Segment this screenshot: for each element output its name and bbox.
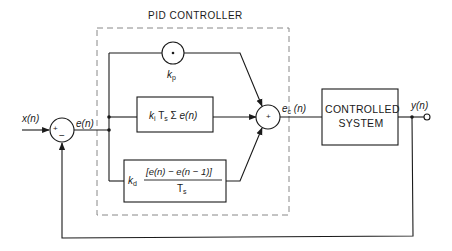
- multiply-dot-icon: [172, 52, 175, 55]
- branch-dot-error: [107, 128, 111, 132]
- integral-block-text: ki Ts Σ e(n): [149, 111, 197, 122]
- derivative-denominator: Ts: [177, 184, 187, 195]
- proportional-gain-label: kp: [167, 70, 176, 81]
- controlled-system-line2: SYSTEM: [325, 118, 397, 129]
- input-sum-minus-sign: −: [59, 131, 65, 141]
- output-terminal-icon: [424, 114, 430, 120]
- derivative-gain-label: kd: [128, 176, 137, 187]
- derivative-numerator: [e(n) − e(n − 1)]: [146, 167, 212, 177]
- error-signal-label: e(n): [76, 119, 94, 129]
- output-signal-label: y(n): [411, 101, 428, 111]
- derivative-output-line: [226, 128, 262, 181]
- pid-controller-title: PID CONTROLLER: [148, 11, 243, 21]
- input-sum-plus-sign: +: [53, 125, 58, 133]
- controller-output-label: ec (n): [282, 104, 306, 115]
- controlled-system-line1: CONTROLLED: [325, 104, 397, 115]
- output-sum-plus-sign: +: [266, 113, 271, 121]
- input-signal-label: x(n): [22, 114, 39, 124]
